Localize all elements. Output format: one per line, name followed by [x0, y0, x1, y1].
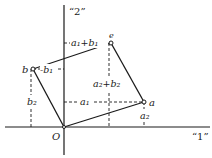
side-a-to-sum [111, 43, 144, 102]
parallelogram-diagram: “2” “1” O a b e a₁+b₁ -b₁ b₂ a₁ a₂ a₂+b₂ [0, 0, 212, 158]
vertical-axis-label: “2” [69, 6, 86, 17]
a2-component-label: a₂ [140, 110, 150, 121]
horizontal-axis-label: “1” [192, 131, 209, 142]
point-a-marker [142, 100, 146, 104]
point-b-marker [31, 67, 35, 71]
origin-label: O [52, 131, 60, 142]
a1-component-label: a₁ [80, 96, 89, 107]
b2-component-label: b₂ [27, 96, 37, 107]
origin-marker [63, 126, 66, 129]
point-b-label: b [22, 64, 28, 75]
sum2-component-label: a₂+b₂ [93, 78, 121, 89]
b1-component-label: -b₁ [40, 64, 53, 75]
point-a-label: a [149, 97, 155, 108]
point-sum-label: e [109, 31, 114, 40]
point-sum-marker [109, 41, 113, 45]
vector-a [64, 102, 144, 127]
sum1-component-label: a₁+b₁ [71, 37, 98, 48]
